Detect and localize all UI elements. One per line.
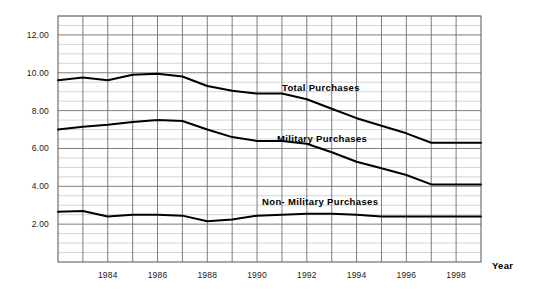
y-tick-label: 12.00 bbox=[27, 30, 49, 40]
x-tick-label: 1986 bbox=[148, 270, 168, 280]
x-axis-title: Year bbox=[492, 260, 513, 271]
line-chart: 2.004.006.008.0010.0012.00 1984198619881… bbox=[0, 0, 540, 299]
y-tick-label: 8.00 bbox=[32, 106, 49, 116]
chart-background bbox=[0, 0, 540, 299]
y-tick-label: 2.00 bbox=[32, 219, 49, 229]
y-tick-label: 4.00 bbox=[32, 181, 49, 191]
x-tick-label: 1992 bbox=[297, 270, 317, 280]
x-tick-label: 1994 bbox=[347, 270, 367, 280]
x-tick-label: 1984 bbox=[98, 270, 118, 280]
series-label: Total Purchases bbox=[282, 82, 360, 93]
x-tick-label: 1990 bbox=[247, 270, 267, 280]
x-tick-label: 1998 bbox=[446, 270, 466, 280]
chart-container: 2.004.006.008.0010.0012.00 1984198619881… bbox=[0, 0, 540, 299]
x-tick-label: 1996 bbox=[396, 270, 416, 280]
series-label: Non- Military Purchases bbox=[262, 196, 378, 207]
series-label: Military Purchases bbox=[277, 133, 367, 144]
y-tick-label: 10.00 bbox=[27, 68, 49, 78]
y-tick-label: 6.00 bbox=[32, 143, 49, 153]
x-tick-label: 1988 bbox=[197, 270, 217, 280]
